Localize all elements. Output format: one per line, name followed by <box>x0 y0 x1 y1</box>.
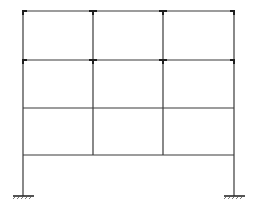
joint-corner-icon <box>22 59 27 64</box>
beams <box>23 11 234 155</box>
joint-tee-icon <box>159 10 167 15</box>
right-fixed-support <box>224 196 245 199</box>
columns <box>23 11 234 196</box>
joint-corner-icon <box>230 59 235 64</box>
frame-svg <box>0 0 256 208</box>
joint-tee-icon <box>89 10 97 15</box>
frame-diagram <box>0 0 256 208</box>
joint-tee-icon <box>89 59 97 64</box>
rigid-joints <box>22 10 235 64</box>
joint-corner-icon <box>230 10 235 15</box>
left-fixed-support <box>13 196 34 199</box>
joint-corner-icon <box>22 10 27 15</box>
joint-tee-icon <box>159 59 167 64</box>
